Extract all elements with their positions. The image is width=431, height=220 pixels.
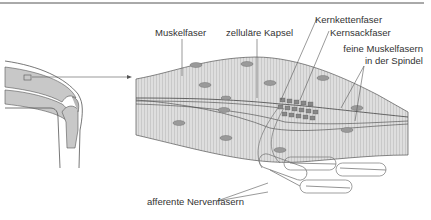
label-muscle-fiber: Muskelfaser xyxy=(155,27,206,38)
label-cellular-capsule: zelluläre Kapsel xyxy=(226,27,293,38)
arrow-head-icon xyxy=(127,75,132,79)
label-nuclear-chain-fiber: Kernkettenfaser xyxy=(315,14,382,25)
label-nuclear-bag-fiber: Kernsackfaser xyxy=(330,27,391,38)
label-afferent-nerves: afferente Nervenfasern xyxy=(147,196,244,207)
knee-illustration xyxy=(5,61,132,168)
label-fine-fibers-1: feine Muskelfasern xyxy=(343,43,423,54)
muscle-belly xyxy=(136,57,408,162)
label-fine-fibers-2: in der Spindel xyxy=(365,55,423,66)
